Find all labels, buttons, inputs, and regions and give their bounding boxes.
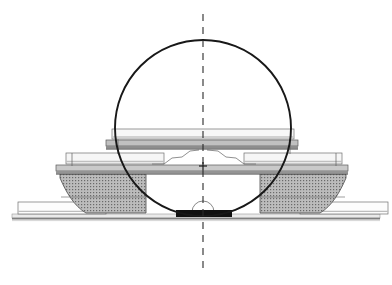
gallery-shadow-band <box>56 171 348 174</box>
roof-group <box>106 129 298 149</box>
vault-detail-group <box>152 150 256 164</box>
drawing-canvas <box>0 0 392 285</box>
right-vault-soffit-polyline <box>207 150 244 164</box>
mid-slab-group <box>66 153 342 164</box>
architectural-section-svg <box>0 0 392 285</box>
left-vault-soffit-polyline <box>164 150 199 164</box>
roof-deck-band <box>106 140 298 146</box>
roof-shadow-band <box>106 146 298 149</box>
pier-group <box>60 174 346 213</box>
